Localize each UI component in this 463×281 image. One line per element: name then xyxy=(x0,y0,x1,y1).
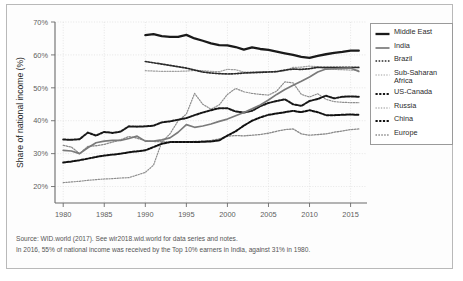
legend-item-label: US-Canada xyxy=(394,88,432,97)
x-axis-tick-label: 2015 xyxy=(342,210,358,219)
figure-container: 20%30%40%50%60%70%1980198519901995200020… xyxy=(6,4,453,269)
chart-legend: Middle EastIndiaBrazilSub-Saharan Africa… xyxy=(370,23,453,145)
legend-item-russia[interactable]: Russia xyxy=(375,102,449,113)
legend-swatch-icon xyxy=(375,116,390,126)
y-axis-tick-label: 20% xyxy=(33,182,48,191)
legend-swatch-icon xyxy=(375,103,390,113)
legend-item-label: Middle East xyxy=(394,28,432,37)
caption-note-line: In 2016, 55% of national income was rece… xyxy=(16,244,454,255)
legend-item-label: Russia xyxy=(394,102,416,111)
series-line-brazil xyxy=(145,61,358,74)
chart-caption: Source: WID.world (2017). See wir2018.wi… xyxy=(7,231,454,255)
y-axis-tick-label: 60% xyxy=(33,51,48,60)
legend-item-label: Sub-Saharan Africa xyxy=(394,69,437,86)
legend-item-label: China xyxy=(394,115,413,124)
y-axis-tick-label: 50% xyxy=(33,84,48,93)
legend-item-label: Europe xyxy=(394,129,418,138)
y-axis-title: Share of national income (%) xyxy=(15,57,25,168)
legend-item-europe[interactable]: Europe xyxy=(375,129,449,140)
x-axis-tick-label: 1990 xyxy=(137,210,153,219)
legend-swatch-icon xyxy=(375,43,390,53)
series-line-china xyxy=(63,110,359,162)
legend-item-china[interactable]: China xyxy=(375,115,449,126)
x-axis-tick-label: 2010 xyxy=(301,210,317,219)
legend-swatch-icon xyxy=(375,56,390,66)
x-axis-tick-label: 2005 xyxy=(260,210,276,219)
legend-item-middle-east[interactable]: Middle East xyxy=(375,28,449,39)
caption-source-line: Source: WID.world (2017). See wir2018.wi… xyxy=(16,233,454,244)
legend-item-label: India xyxy=(394,42,410,51)
legend-swatch-icon xyxy=(375,130,390,140)
y-axis-tick-label: 30% xyxy=(33,149,48,158)
y-axis-tick-label: 70% xyxy=(33,18,48,27)
legend-item-india[interactable]: India xyxy=(375,42,449,53)
legend-swatch-icon xyxy=(375,89,390,99)
legend-item-brazil[interactable]: Brazil xyxy=(375,55,449,66)
legend-item-label: Brazil xyxy=(394,55,412,64)
series-line-middle-east xyxy=(145,34,358,58)
x-axis-tick-label: 1985 xyxy=(96,210,112,219)
x-axis-tick-label: 2000 xyxy=(219,210,235,219)
legend-swatch-icon xyxy=(375,29,390,39)
x-axis-tick-label: 1980 xyxy=(55,210,71,219)
legend-item-us-canada[interactable]: US-Canada xyxy=(375,88,449,99)
legend-swatch-icon xyxy=(375,70,390,80)
series-line-us-canada xyxy=(63,96,359,140)
x-axis-tick-label: 1995 xyxy=(178,210,194,219)
legend-item-sub-saharan-africa[interactable]: Sub-Saharan Africa xyxy=(375,69,449,86)
y-axis-tick-label: 40% xyxy=(33,116,48,125)
